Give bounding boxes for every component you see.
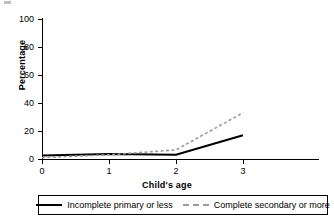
chart-figure: 020406080100 Percentage 0123 Child's age… [0,0,334,222]
legend-item-complete-secondary-or-more: Complete secondary or more [183,200,330,210]
series-line-complete-secondary-or-more [42,113,243,158]
series-line-incomplete-primary-or-less [42,135,243,155]
series-layer [0,0,334,222]
legend-swatch-solid-icon [36,204,62,206]
legend-swatch-dashed-icon [183,204,209,206]
chart-legend: Incomplete primary or less Complete seco… [38,195,328,215]
legend-label: Complete secondary or more [214,200,330,210]
legend-label: Incomplete primary or less [67,200,173,210]
legend-item-incomplete-primary-or-less: Incomplete primary or less [36,200,173,210]
